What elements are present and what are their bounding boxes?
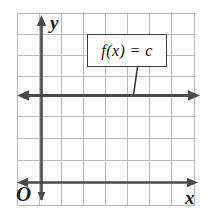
function-label-callout: f(x) = c: [87, 34, 167, 67]
y-axis-label: y: [50, 13, 58, 32]
x-axis-label: x: [185, 188, 195, 207]
function-label-text: f(x) = c: [101, 42, 152, 60]
origin-label: O: [16, 184, 31, 205]
constant-function-figure: f(x) = c y x O: [0, 0, 205, 217]
